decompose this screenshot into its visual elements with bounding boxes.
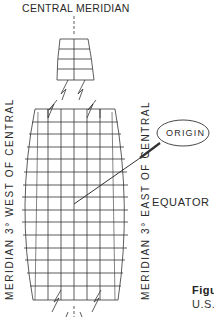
break-marks-bottom bbox=[52, 290, 101, 317]
west-meridian-label: MERIDIAN 3° WEST OF CENTRAL bbox=[4, 98, 15, 300]
diagram-canvas: CENTRAL MERIDIAN MERIDIAN 3° WEST OF CEN… bbox=[0, 0, 214, 317]
zone-diagram-graphic bbox=[0, 0, 214, 317]
figure-caption-subtitle: U.S. bbox=[192, 298, 214, 310]
equator-label: EQUATOR bbox=[152, 196, 210, 208]
origin-label: ORIGIN bbox=[166, 128, 205, 138]
top-tile-grid bbox=[57, 39, 94, 80]
main-zone-grid bbox=[22, 109, 128, 300]
figure-caption-title: Figu bbox=[192, 284, 214, 296]
break-marks-top bbox=[48, 80, 96, 118]
central-meridian-label: CENTRAL MERIDIAN bbox=[22, 2, 130, 14]
east-meridian-label: MERIDIAN 3° EAST OF CENTRAL bbox=[140, 101, 151, 300]
